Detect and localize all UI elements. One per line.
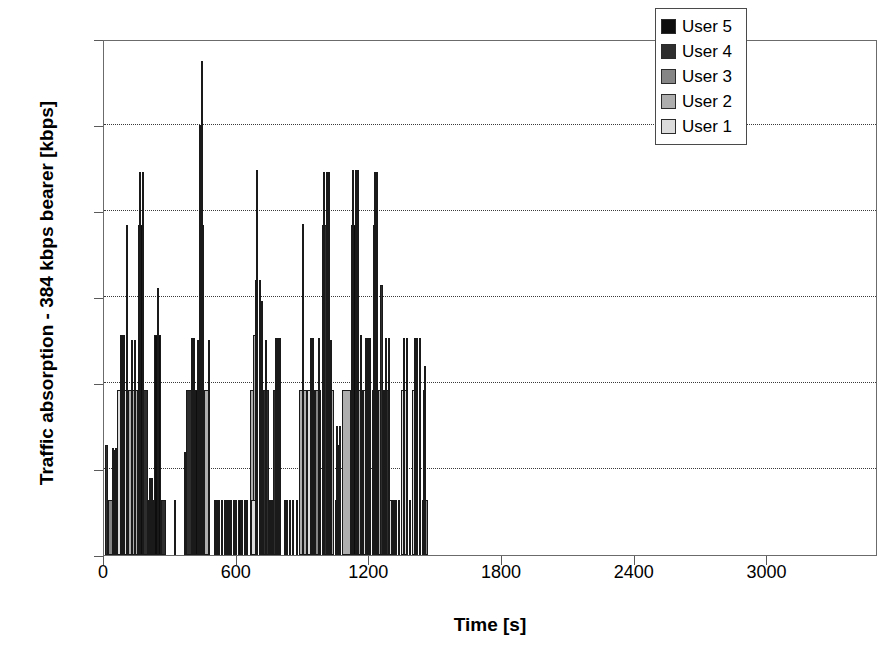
- bar: [312, 338, 314, 555]
- bar: [174, 500, 176, 555]
- legend-label: User 3: [682, 67, 732, 87]
- legend-swatch-icon: [661, 94, 676, 109]
- x-tick-label: 1200: [348, 562, 388, 583]
- x-tick-label: 600: [221, 562, 251, 583]
- y-tick-mark: [94, 384, 103, 385]
- bar: [251, 500, 256, 555]
- bar: [218, 500, 220, 555]
- legend-item: User 3: [661, 64, 740, 89]
- gridline: [104, 124, 876, 125]
- bar: [360, 335, 362, 555]
- bar: [199, 125, 201, 555]
- plot-inner: [104, 41, 876, 555]
- bar: [352, 170, 354, 555]
- bar: [279, 338, 281, 555]
- bar: [286, 500, 288, 555]
- y-axis-title: Traffic absorption - 384 kbps bearer [kb…: [36, 33, 58, 553]
- bar: [403, 338, 405, 555]
- bar: [342, 390, 351, 555]
- x-tick-label: 0: [98, 562, 108, 583]
- bar: [289, 500, 291, 555]
- x-tick-label: 2400: [614, 562, 654, 583]
- legend-swatch-icon: [661, 44, 676, 59]
- bar: [256, 170, 258, 555]
- x-tick-mark: [236, 556, 237, 565]
- legend-label: User 5: [682, 17, 732, 37]
- bar: [201, 61, 203, 556]
- legend-swatch-icon: [661, 69, 676, 84]
- gridline: [104, 296, 876, 297]
- bar: [380, 285, 383, 555]
- bar: [265, 340, 267, 555]
- bar: [246, 500, 248, 555]
- x-tick-mark: [368, 556, 369, 565]
- y-tick-mark: [94, 470, 103, 471]
- bar: [292, 500, 294, 555]
- chart-figure: Traffic absorption - 384 kbps bearer [kb…: [0, 0, 894, 661]
- gridline: [104, 382, 876, 383]
- bar: [398, 500, 400, 555]
- bar: [409, 500, 411, 555]
- legend-label: User 1: [682, 117, 732, 137]
- bar: [302, 224, 304, 555]
- y-tick-mark: [94, 126, 103, 127]
- bar: [134, 340, 136, 555]
- bar: [157, 288, 159, 555]
- bar: [296, 500, 298, 555]
- bar: [161, 500, 166, 555]
- x-tick-label: 3000: [746, 562, 786, 583]
- bar: [395, 500, 397, 555]
- bar: [330, 340, 332, 555]
- y-tick-mark: [94, 212, 103, 213]
- legend-item: User 2: [661, 89, 740, 114]
- x-tick-mark: [766, 556, 767, 565]
- bar: [318, 338, 320, 555]
- x-axis-title: Time [s]: [103, 614, 877, 636]
- legend: User 5User 4User 3User 2User 1: [655, 8, 747, 145]
- legend-item: User 1: [661, 114, 740, 139]
- y-tick-mark: [94, 298, 103, 299]
- bar: [336, 426, 338, 555]
- x-tick-mark: [501, 556, 502, 565]
- gridline: [104, 468, 876, 469]
- bar: [339, 426, 341, 555]
- legend-item: User 5: [661, 14, 740, 39]
- x-tick-label: 1800: [481, 562, 521, 583]
- legend-swatch-icon: [661, 119, 676, 134]
- legend-item: User 4: [661, 39, 740, 64]
- legend-label: User 4: [682, 42, 732, 62]
- bar: [208, 340, 210, 555]
- y-tick-mark: [94, 556, 103, 557]
- y-tick-mark: [94, 40, 103, 41]
- legend-label: User 2: [682, 92, 732, 112]
- x-tick-mark: [634, 556, 635, 565]
- gridline: [104, 210, 876, 211]
- bar: [424, 366, 426, 555]
- x-tick-mark: [103, 556, 104, 565]
- plot-area: [103, 40, 877, 556]
- legend-swatch-icon: [661, 19, 676, 34]
- bar: [151, 478, 153, 555]
